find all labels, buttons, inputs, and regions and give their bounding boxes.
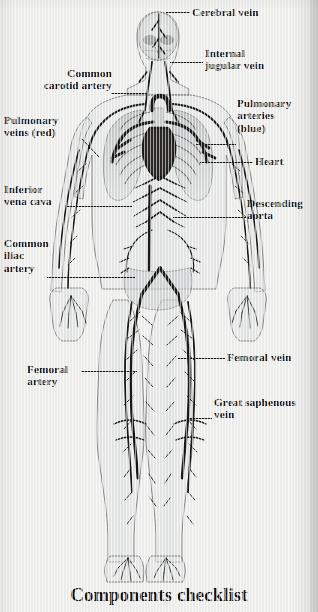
diagram-page: Cerebral veinInternal jugular veinCommon… bbox=[0, 0, 318, 612]
femoral-vein-leader bbox=[178, 358, 225, 359]
inferior-vena-cava bbox=[149, 186, 150, 270]
label-descending-aorta: Descending aorta bbox=[247, 197, 317, 222]
common-carotid-leader bbox=[111, 93, 147, 94]
pulmonary-veins-leader-diag bbox=[81, 138, 100, 158]
pulmonary-arteries-leader bbox=[196, 144, 236, 145]
label-cerebral-vein: Cerebral vein bbox=[192, 6, 312, 18]
descending-aorta-leader bbox=[173, 217, 246, 218]
label-internal-jugular: Internal jugular vein bbox=[205, 47, 315, 72]
internal-jugular-leader bbox=[170, 62, 203, 63]
label-femoral-artery: Femoral artery bbox=[27, 363, 107, 388]
figure-caption: Components checklist bbox=[0, 583, 318, 607]
label-pulmonary-arteries: Pulmonary arteries (blue) bbox=[237, 97, 317, 134]
label-inferior-vena-cava: Inferior vena cava bbox=[4, 183, 100, 208]
cerebral-vein-leader bbox=[166, 12, 190, 13]
label-great-saphenous: Great saphenous vein bbox=[214, 396, 318, 421]
label-common-carotid: Common carotid artery bbox=[8, 67, 112, 92]
heart-leader bbox=[200, 162, 253, 163]
common-iliac-leader bbox=[47, 277, 135, 278]
skull-detail bbox=[138, 12, 178, 61]
label-femoral-vein: Femoral vein bbox=[227, 351, 315, 363]
label-heart: Heart bbox=[255, 155, 315, 167]
label-pulmonary-veins: Pulmonary veins (red) bbox=[4, 114, 104, 139]
great-saphenous-leader bbox=[188, 418, 212, 419]
label-common-iliac: Common iliac artery bbox=[4, 237, 84, 274]
